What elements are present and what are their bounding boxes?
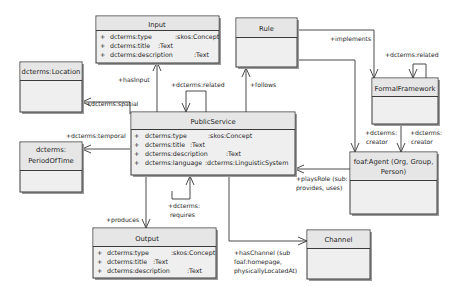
attribute-name: dcterms:type	[107, 249, 149, 257]
label-creator-2-line-2: creator	[411, 138, 433, 145]
class-rule[interactable]: Rule	[236, 18, 299, 69]
class-period-of-time[interactable]: dcterms: PeriodOfTime	[20, 142, 84, 194]
visibility-public: +	[100, 33, 105, 40]
label-related-ps: +dcterms:related	[171, 81, 225, 88]
class-name-line-1: foaf:Agent (Org, Group,	[354, 158, 434, 166]
class-output[interactable]: Output + dcterms:type :skos:Concept + dc…	[93, 228, 218, 280]
class-name: Input	[148, 21, 166, 29]
attribute-name: dcterms:language	[145, 159, 202, 167]
association-temporal	[82, 145, 130, 153]
attribute-name: dcterms:title	[110, 42, 150, 49]
label-temporal: +dcterms:temporal	[66, 132, 126, 140]
label-requires-line-1: +dcterms:	[168, 202, 200, 209]
attribute-type: :dcterms:LinguisticSystem	[205, 159, 288, 167]
label-has-input: +hasInput	[118, 76, 150, 84]
attribute-type: :Text	[187, 267, 202, 274]
class-name-line-2: PeriodOfTime	[28, 157, 74, 165]
label-requires-line-2: requires	[170, 211, 195, 219]
class-input[interactable]: Input + dcterms:type :skos:Concept + dct…	[96, 16, 221, 65]
association-requires	[172, 176, 194, 199]
class-name: Rule	[259, 25, 274, 33]
class-formal-framework[interactable]: FormalFramework	[372, 78, 440, 126]
class-name: Output	[135, 235, 159, 243]
attribute-type: :Text	[190, 141, 205, 148]
label-produces: +produces	[106, 216, 139, 224]
attribute-name: dcterms:type	[145, 132, 187, 140]
visibility-public: +	[97, 249, 102, 256]
association-related-ff	[409, 64, 426, 78]
association-plays-role	[295, 165, 350, 173]
visibility-public: +	[134, 141, 139, 148]
class-channel[interactable]: Channel	[307, 230, 372, 281]
attribute-name: dcterms:description	[107, 267, 170, 275]
attribute-name: dcterms:description	[110, 51, 173, 59]
label-spatial: +dcterms:spatial	[86, 100, 139, 108]
class-name: Channel	[325, 236, 353, 244]
label-creator-2-line-1: +dcterms:	[410, 129, 442, 136]
attribute-type: :Text	[153, 258, 168, 265]
label-plays-role-line-1: +playsRole (sub:	[296, 175, 348, 183]
class-location[interactable]: dcterms:Location	[20, 62, 84, 114]
visibility-public: +	[97, 267, 102, 274]
uml-class-diagram: Input + dcterms:type :skos:Concept + dct…	[0, 0, 457, 295]
attribute-type: :Text	[158, 42, 173, 49]
attribute-type: :Text	[194, 51, 209, 58]
label-creator-1-line-2: creator	[366, 138, 388, 145]
label-follows: +follows	[250, 81, 276, 88]
attribute-type: :Text	[226, 150, 241, 157]
label-has-channel-line-3: physicallyLocatedAt)	[234, 267, 297, 275]
label-implements: +implements	[330, 35, 371, 43]
class-name: PublicService	[190, 118, 235, 126]
visibility-public: +	[100, 51, 105, 58]
attribute-name: dcterms:title	[145, 141, 185, 148]
association-creator-ff	[397, 124, 405, 152]
association-produces	[142, 176, 150, 228]
visibility-public: +	[134, 150, 139, 157]
class-name-line-2: Person)	[381, 168, 407, 176]
class-agent[interactable]: foaf:Agent (Org, Group, Person)	[350, 152, 439, 216]
attribute-type: :skos:Concept	[171, 249, 216, 257]
attribute-name: dcterms:type	[110, 33, 152, 41]
attribute-type: :skos:Concept	[208, 132, 253, 140]
association-related-self	[182, 91, 206, 112]
association-creator-rule	[298, 60, 359, 152]
class-public-service[interactable]: PublicService + dcterms:type :skos:Conce…	[131, 112, 297, 177]
label-plays-role-line-2: provides, uses)	[296, 184, 342, 192]
visibility-public: +	[97, 258, 102, 265]
association-has-input	[153, 62, 161, 112]
visibility-public: +	[100, 42, 105, 49]
label-has-channel-line-1: +hasChannel (sub	[234, 249, 290, 256]
attribute-name: dcterms:description	[145, 150, 208, 158]
attribute-type: :skos:Concept	[175, 33, 220, 41]
label-related-ff: +dcterms:related	[385, 51, 439, 58]
visibility-public: +	[134, 132, 139, 139]
class-name: FormalFramework	[375, 85, 436, 93]
label-has-channel-line-2: foaf:homepage,	[234, 258, 282, 266]
label-creator-1-line-1: +dcterms:	[365, 129, 397, 136]
attribute-name: dcterms:title	[107, 258, 147, 265]
class-name: dcterms:Location	[22, 68, 81, 76]
class-name-line-1: dcterms:	[36, 146, 66, 154]
visibility-public: +	[134, 159, 139, 166]
association-follows	[242, 68, 250, 112]
